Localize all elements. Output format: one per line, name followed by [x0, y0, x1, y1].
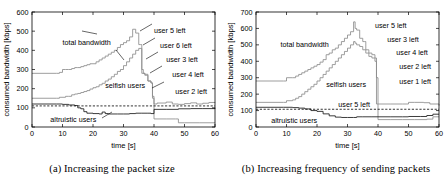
annotation-label: user 5 left: [338, 100, 370, 109]
x-tick-label: 20: [89, 129, 97, 138]
annotation-label: user 5 left: [154, 26, 186, 35]
panel-a: total bandwidthselfish usersaltruistic u…: [0, 0, 224, 176]
chart-a-svg: total bandwidthselfish usersaltruistic u…: [0, 0, 224, 152]
annotation-label: user 6 left: [160, 41, 192, 50]
y-tick-label: 700: [241, 8, 253, 17]
annotation-label: user 4 left: [172, 70, 204, 79]
x-axis-title-b: time [s]: [335, 141, 359, 150]
x-tick-label: 30: [120, 129, 128, 138]
y-tick-label: 300: [17, 65, 29, 74]
panel-b: total bandwidthselfish usersaltruistic u…: [224, 0, 448, 176]
annotation-leader: [116, 50, 124, 60]
annotation-label: user 1 left: [399, 77, 431, 86]
y-tick-label: 200: [241, 90, 253, 99]
y-tick-label: 600: [17, 8, 29, 17]
annotation-leader: [143, 38, 155, 45]
x-tick-label: 30: [344, 129, 352, 138]
y-tick-label: 600: [241, 24, 253, 33]
y-tick-label: 100: [241, 106, 253, 115]
annotation-label: user 4 left: [396, 48, 428, 57]
annotation-leader: [146, 52, 158, 59]
y-tick-label: 400: [241, 57, 253, 66]
y-axis-title-b: consumed bandwidth [kbps]: [226, 22, 235, 116]
x-tick-label: 20: [313, 129, 321, 138]
y-tick-label: 400: [17, 46, 29, 55]
x-tick-label: 40: [150, 129, 158, 138]
annotation-leader: [150, 66, 162, 73]
y-tick-label: 100: [17, 103, 29, 112]
caption-b: (b) Increasing frequency of sending pack…: [224, 163, 448, 174]
annotation-leader: [152, 82, 164, 88]
x-tick-label: 0: [254, 129, 258, 138]
x-tick-label: 50: [181, 129, 189, 138]
annotation-label: total bandwidth: [280, 40, 328, 49]
y-tick-label: 200: [17, 84, 29, 93]
chart-a: total bandwidthselfish usersaltruistic u…: [0, 0, 224, 152]
caption-a: (a) Increasing the packet size: [0, 163, 224, 174]
annotation-leader: [82, 31, 97, 34]
y-tick-label: 500: [241, 40, 253, 49]
annotation-label: user 2 left: [399, 62, 431, 71]
x-tick-label: 0: [30, 129, 34, 138]
y-tick-label: 300: [241, 73, 253, 82]
x-tick-label: 10: [59, 129, 67, 138]
x-tick-label: 60: [211, 129, 219, 138]
annotation-label: user 2 left: [175, 87, 207, 96]
annotation-label: user 5 left: [375, 21, 407, 30]
annotation-label: user 3 left: [387, 35, 419, 44]
annotation-label: user 3 left: [166, 55, 198, 64]
x-axis-title-a: time [s]: [111, 141, 135, 150]
annotation-label: altruistic users: [271, 116, 317, 125]
annotation-label: selfish users: [326, 80, 366, 89]
x-tick-label: 40: [374, 129, 382, 138]
chart-b-svg: total bandwidthselfish usersaltruistic u…: [224, 0, 448, 152]
x-tick-label: 60: [435, 129, 443, 138]
series-altruistic-users: [32, 104, 215, 114]
annotation-label: altruistic users: [50, 115, 96, 124]
figure-container: total bandwidthselfish usersaltruistic u…: [0, 0, 448, 176]
y-tick-label: 0: [249, 123, 253, 132]
x-tick-label: 50: [405, 129, 413, 138]
y-tick-label: 0: [25, 123, 29, 132]
y-tick-label: 500: [17, 27, 29, 36]
annotation-label: total bandwidth: [63, 38, 111, 47]
annotation-leader: [140, 24, 152, 31]
annotation-leader: [102, 112, 112, 118]
y-axis-title-a: consumed bandwidth [kbps]: [2, 22, 11, 116]
x-tick-label: 10: [283, 129, 291, 138]
chart-b: total bandwidthselfish usersaltruistic u…: [224, 0, 448, 152]
annotation-label: selfish users: [105, 81, 145, 90]
